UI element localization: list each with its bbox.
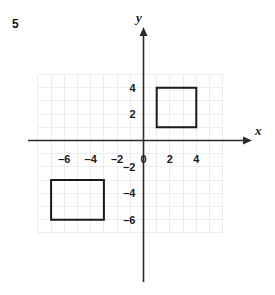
coordinate-plane-svg: –6–4–202442–2–4–6 x y (0, 0, 275, 295)
y-tick-label: –4 (123, 187, 136, 199)
x-tick-label: 4 (193, 153, 200, 165)
x-tick-label: –6 (58, 153, 70, 165)
coordinate-plane-figure: –6–4–202442–2–4–6 x y (0, 0, 275, 295)
y-axis-arrowhead (140, 27, 148, 36)
x-axis-label: x (254, 123, 262, 138)
square-upper-right (157, 88, 197, 128)
x-tick-label: –4 (85, 153, 98, 165)
y-tick-label: –2 (123, 161, 135, 173)
x-tick-label: –2 (111, 153, 123, 165)
y-tick-label: 4 (129, 82, 136, 94)
origin-label: 0 (140, 153, 146, 165)
y-axis-label: y (134, 10, 142, 25)
y-tick-label: –6 (123, 214, 135, 226)
x-tick-label: 2 (167, 153, 173, 165)
y-tick-label: 2 (129, 108, 135, 120)
x-axis-arrowhead (243, 137, 252, 145)
